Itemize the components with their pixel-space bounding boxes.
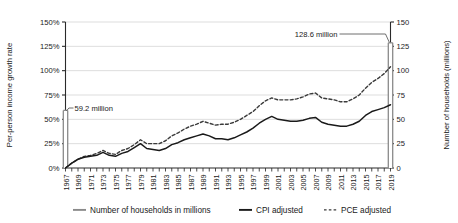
x-axis-tick-label: 1985 [174,175,183,191]
right-axis-tick-label: 100 [397,66,410,75]
x-axis-tick-label: 1967 [62,175,71,191]
x-axis-tick-label: 2011 [337,175,346,190]
x-axis-tick-label: 2015 [362,175,371,191]
right-axis-tick-label: 150 [397,18,410,27]
legend-label: PCE adjusted [341,206,392,215]
x-axis-tick-label: 1999 [262,175,271,191]
x-axis-tick-label: 2017 [374,175,383,191]
x-axis-tick-label: 1987 [187,175,196,191]
x-axis-tick-label: 2007 [312,175,321,191]
left-axis-tick-label: 100% [40,66,60,75]
left-axis-tick-label: 75% [44,91,59,100]
right-axis-tick-label: 50 [397,115,405,124]
x-axis-tick-label: 1997 [249,175,258,191]
right-axis-tick-label: 125 [397,42,410,51]
y-axis-title: Per-person income growth rate [5,43,14,147]
x-axis-tick-label: 1995 [237,175,246,191]
left-axis-tick-label: 25% [44,139,59,148]
legend-item-pce-adjusted[interactable]: PCE adjusted [324,206,392,215]
x-axis-tick-label: 1983 [162,175,171,191]
annotation-leader-128-6-million [340,34,390,42]
x-axis-tick-label: 1979 [137,175,146,191]
x-axis-tick-label: 2001 [274,175,283,191]
series-line-pce-adjusted [66,67,391,168]
left-axis-tick-label: 150% [40,18,60,27]
left-axis-tick-label: 50% [44,115,59,124]
x-axis-tick-label: 2003 [287,175,296,191]
legend-label: CPI adjusted [256,206,303,215]
annotation-label-128-6-million: 128.6 million [295,30,338,39]
x-axis-tick-label: 1991 [212,175,221,191]
right-axis-tick-label: 0 [397,164,401,173]
left-axis-tick-label: 125% [40,42,60,51]
legend-item-cpi-adjusted[interactable]: CPI adjusted [239,206,303,215]
legend-item-number-of-households-in-millions[interactable]: Number of households in millions [73,206,211,215]
x-axis-tick-label: 1981 [149,175,158,191]
x-axis-tick-label: 1989 [199,175,208,191]
legend-label: Number of households in millions [90,206,211,215]
chart-container: 150%125%100%75%50%25%0%15012510075502501… [0,0,458,223]
x-axis-tick-label: 2019 [387,175,396,191]
left-axis-tick-label: 0% [49,164,60,173]
y2-axis-title: Number of households (millions) [442,40,451,149]
series-line-cpi-adjusted [66,105,391,168]
x-axis-tick-label: 1969 [74,175,83,191]
x-axis-tick-label: 2013 [349,175,358,191]
annotation-label-59-2-million: 59.2 million [75,104,113,113]
household-marker-1967 [63,110,67,168]
x-axis-tick-label: 1973 [99,175,108,191]
right-axis-tick-label: 25 [397,139,405,148]
x-axis-tick-label: 1975 [112,175,121,191]
right-axis-tick-label: 75 [397,91,405,100]
x-axis-tick-label: 1977 [124,175,133,191]
x-axis-tick-label: 2009 [324,175,333,191]
x-axis-tick-label: 2005 [299,175,308,191]
x-axis-tick-label: 1971 [87,175,96,191]
income-growth-households-chart: 150%125%100%75%50%25%0%15012510075502501… [0,0,458,223]
x-axis-tick-label: 1993 [224,175,233,191]
